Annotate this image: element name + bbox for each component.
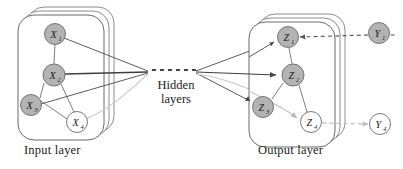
node-x4[interactable]: X 4 <box>67 112 88 133</box>
node-z1[interactable]: Z 1 <box>278 27 299 48</box>
node-x1-subscript: 1 <box>59 35 62 42</box>
node-y1[interactable]: Y 1 <box>369 23 390 44</box>
node-z1-subscript: 1 <box>291 38 294 45</box>
node-x3[interactable]: X 3 <box>21 95 42 116</box>
node-z2[interactable]: Z 2 <box>282 64 304 86</box>
node-x3-label: X <box>26 100 34 111</box>
neural-network-figure: X 1 X 2 X 3 X 4 Z 1 <box>0 0 403 169</box>
node-z4-label: Z <box>307 117 313 128</box>
node-y1-subscript: 1 <box>382 34 385 41</box>
node-x1[interactable]: X 1 <box>45 24 66 45</box>
output-layer-label: Output layer <box>258 143 323 158</box>
node-x1-label: X <box>50 29 58 40</box>
node-y4[interactable]: Y 4 <box>370 114 391 135</box>
input-layer-label: Input layer <box>24 143 81 158</box>
hidden-layers-label-line2: layers <box>143 92 209 106</box>
hidden-layers-label: Hidden layers <box>143 78 209 106</box>
node-z1-label: Z <box>284 32 290 43</box>
node-z3[interactable]: Z 3 <box>253 97 274 118</box>
hidden-layers-label-line1: Hidden <box>143 78 209 92</box>
node-z3-label: Z <box>259 102 265 113</box>
node-z2-label: Z <box>289 70 295 81</box>
response-nodes: Y 1 Y 4 <box>369 23 391 135</box>
node-x2[interactable]: X 2 <box>43 64 65 86</box>
node-x4-label: X <box>72 117 80 128</box>
node-x2-label: X <box>49 70 57 81</box>
node-z4[interactable]: Z 4 <box>301 112 322 133</box>
